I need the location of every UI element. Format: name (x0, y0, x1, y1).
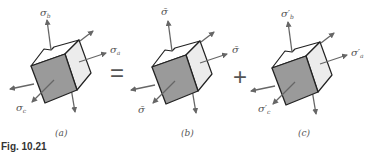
subfigure-label-c: (c) (298, 128, 311, 138)
panel-a: σb σa σc (a) (10, 7, 121, 138)
plus-sign: + (233, 63, 247, 90)
sigma-prime-b-label: σ′b (281, 8, 294, 20)
sigma-a-label: σa (110, 44, 121, 56)
panel-b: σ̄ σ̄ σ̄ (b) (131, 6, 240, 138)
figure-caption: Fig. 10.21 (1, 141, 47, 152)
subfigure-label-b: (b) (181, 128, 194, 138)
stress-cube-a (10, 20, 106, 112)
equals-sign: = (110, 59, 124, 86)
sigma-bar-right-label: σ̄ (232, 44, 240, 55)
subfigure-label-a: (a) (55, 128, 68, 138)
stress-decomposition-diagram: σb σa σc (a) = σ̄ σ̄ σ̄ (b) + σ′b σ′a σ′… (0, 0, 381, 159)
stress-cube-c (251, 22, 347, 114)
sigma-bar-top-label: σ̄ (161, 6, 169, 17)
stress-cube-b (131, 21, 227, 113)
sigma-c-label: σc (16, 102, 27, 114)
sigma-b-label: σb (40, 7, 51, 19)
sigma-prime-c-label: σ′c (258, 103, 271, 115)
sigma-bar-front-label: σ̄ (138, 104, 146, 115)
sigma-prime-a-label: σ′a (351, 47, 364, 59)
panel-c: σ′b σ′a σ′c (c) (251, 8, 364, 138)
